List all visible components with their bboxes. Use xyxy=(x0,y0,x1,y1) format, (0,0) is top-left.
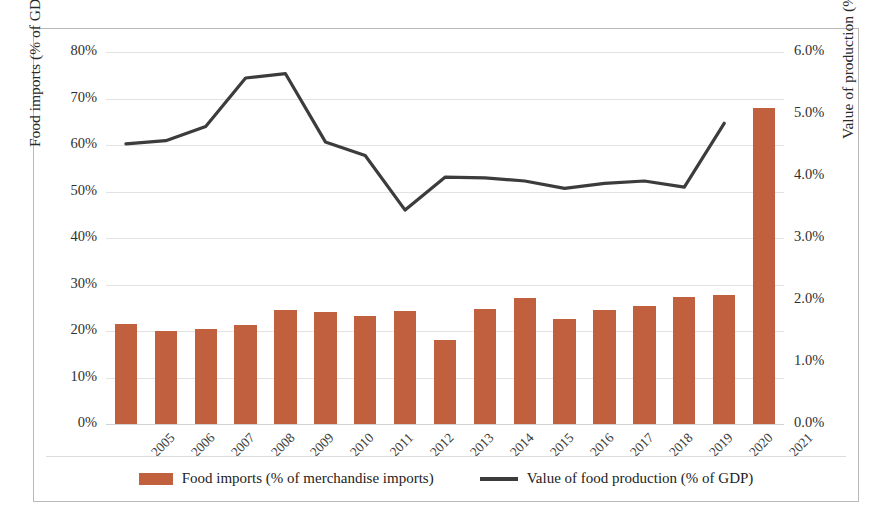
y-axis-right-tick-label: 1.0% xyxy=(794,352,824,369)
y-axis-right-tick-label: 5.0% xyxy=(794,104,824,121)
legend-divider xyxy=(46,456,846,457)
y-axis-left-title: Food imports (% of GDP) xyxy=(26,0,44,147)
y-axis-right-title: Value of production (% of GDP) xyxy=(839,0,857,139)
y-axis-right-tick-label: 4.0% xyxy=(794,166,824,183)
y-axis-left-tick-label: 60% xyxy=(70,135,97,152)
legend-bar-swatch-icon xyxy=(139,473,173,485)
y-axis-left-tick-label: 10% xyxy=(70,368,97,385)
y-axis-right-tick-label: 2.0% xyxy=(794,290,824,307)
gridline xyxy=(106,424,784,425)
legend-item[interactable]: Value of food production (% of GDP) xyxy=(480,470,754,487)
legend-line-swatch-icon xyxy=(480,477,518,481)
y-axis-left-tick-label: 80% xyxy=(70,42,97,59)
legend-label: Value of food production (% of GDP) xyxy=(527,470,754,487)
y-axis-left-tick-label: 0% xyxy=(78,414,97,431)
y-axis-right-tick-label: 6.0% xyxy=(794,42,824,59)
y-axis-left-tick-label: 70% xyxy=(70,89,97,106)
legend-label: Food imports (% of merchandise imports) xyxy=(182,470,434,487)
y-axis-left-tick-label: 30% xyxy=(70,275,97,292)
y-axis-right-tick-label: 3.0% xyxy=(794,228,824,245)
y-axis-right-tick-label: 0.0% xyxy=(794,414,824,431)
line-path xyxy=(126,74,724,210)
y-axis-left-tick-label: 40% xyxy=(70,228,97,245)
plot-area: 0%10%20%30%40%50%60%70%80% 0.0%1.0%2.0%3… xyxy=(106,52,784,424)
y-axis-left-tick-label: 50% xyxy=(70,182,97,199)
line-series xyxy=(106,52,784,424)
legend-item[interactable]: Food imports (% of merchandise imports) xyxy=(139,470,434,487)
chart-legend: Food imports (% of merchandise imports)V… xyxy=(34,470,858,487)
chart-container: Food imports (% of GDP) Value of product… xyxy=(33,28,859,502)
y-axis-left-tick-label: 20% xyxy=(70,321,97,338)
